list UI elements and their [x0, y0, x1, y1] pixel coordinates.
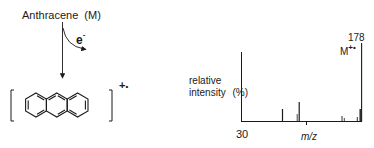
ion-charge: +• [348, 43, 355, 52]
spectrum-axes [241, 52, 362, 125]
figure-canvas [0, 0, 374, 148]
reactant-name: Anthracene [22, 9, 78, 21]
y-axis-label-line1: relative [189, 75, 221, 87]
radical-dot: • [125, 82, 128, 91]
reactant-label: Anthracene (M) [22, 9, 101, 21]
electron-symbol: e [76, 33, 83, 47]
reactant-symbol: (M) [84, 9, 101, 21]
peak-ion-label: M+• [340, 43, 356, 58]
x-axis-label: m/z [301, 131, 317, 143]
electron-charge: - [83, 30, 86, 39]
left-bracket-icon [11, 90, 14, 121]
right-bracket-icon [109, 90, 112, 121]
y-axis-unit: (%) [232, 87, 248, 98]
radical-cation-charge: +• [119, 79, 128, 93]
anthracene-structure-icon [26, 93, 88, 117]
y-axis-label-line2: intensity (%) [189, 87, 248, 99]
electron-label: e- [76, 31, 85, 46]
y-axis-label-text: intensity [189, 87, 226, 98]
x-axis-start-label: 30 [236, 128, 248, 140]
